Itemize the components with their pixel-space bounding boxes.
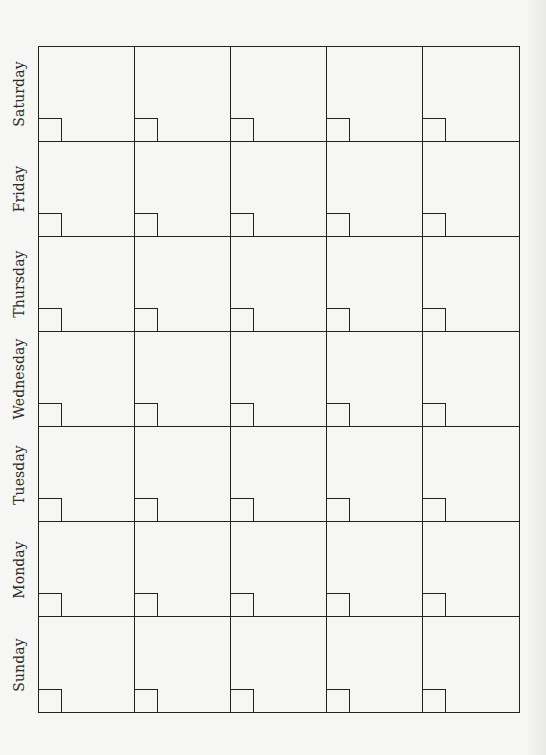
calendar-day-cell[interactable] (231, 427, 327, 522)
calendar-day-cell[interactable] (39, 47, 135, 142)
calendar-day-cell[interactable] (39, 522, 135, 617)
calendar-day-cell[interactable] (327, 617, 423, 712)
date-number-box[interactable] (135, 118, 158, 141)
day-label-text: Saturday (11, 61, 27, 126)
day-label-text: Friday (11, 166, 27, 213)
calendar-day-cell[interactable] (135, 142, 231, 237)
calendar-day-cell[interactable] (135, 332, 231, 427)
day-label-friday: Friday (0, 141, 38, 236)
calendar-day-cell[interactable] (231, 142, 327, 237)
calendar-day-cell[interactable] (39, 237, 135, 332)
day-label-text: Thursday (11, 251, 27, 318)
day-label-sunday: Sunday (0, 618, 38, 713)
date-number-box[interactable] (327, 403, 350, 426)
date-number-box[interactable] (327, 118, 350, 141)
day-label-tuesday: Tuesday (0, 427, 38, 522)
date-number-box[interactable] (327, 498, 350, 521)
date-number-box[interactable] (423, 593, 446, 616)
date-number-box[interactable] (423, 498, 446, 521)
day-label-monday: Monday (0, 522, 38, 617)
date-number-box[interactable] (423, 403, 446, 426)
date-number-box[interactable] (231, 689, 254, 712)
date-number-box[interactable] (135, 308, 158, 331)
date-number-box[interactable] (39, 118, 62, 141)
calendar-grid (38, 46, 520, 713)
calendar-day-cell[interactable] (39, 332, 135, 427)
date-number-box[interactable] (327, 308, 350, 331)
date-number-box[interactable] (135, 213, 158, 236)
calendar-day-cell[interactable] (135, 237, 231, 332)
date-number-box[interactable] (327, 593, 350, 616)
calendar-day-cell[interactable] (135, 522, 231, 617)
calendar-day-cell[interactable] (327, 237, 423, 332)
calendar-day-cell[interactable] (327, 47, 423, 142)
calendar-day-cell[interactable] (231, 522, 327, 617)
calendar-day-cell[interactable] (423, 237, 519, 332)
day-label-text: Sunday (11, 639, 27, 692)
date-number-box[interactable] (135, 498, 158, 521)
date-number-box[interactable] (135, 689, 158, 712)
calendar-day-cell[interactable] (423, 142, 519, 237)
date-number-box[interactable] (135, 403, 158, 426)
calendar-day-cell[interactable] (327, 142, 423, 237)
calendar-day-cell[interactable] (231, 47, 327, 142)
day-label-wednesday: Wednesday (0, 332, 38, 427)
date-number-box[interactable] (231, 308, 254, 331)
day-label-text: Monday (11, 541, 27, 599)
calendar-day-cell[interactable] (231, 237, 327, 332)
date-number-box[interactable] (327, 213, 350, 236)
calendar-day-cell[interactable] (423, 617, 519, 712)
calendar-day-cell[interactable] (231, 617, 327, 712)
date-number-box[interactable] (39, 403, 62, 426)
day-labels-column: SaturdayFridayThursdayWednesdayTuesdayMo… (0, 46, 38, 713)
date-number-box[interactable] (423, 308, 446, 331)
date-number-box[interactable] (231, 498, 254, 521)
date-number-box[interactable] (423, 213, 446, 236)
day-label-thursday: Thursday (0, 237, 38, 332)
date-number-box[interactable] (39, 213, 62, 236)
calendar-day-cell[interactable] (327, 522, 423, 617)
date-number-box[interactable] (231, 118, 254, 141)
calendar-day-cell[interactable] (135, 617, 231, 712)
calendar-day-cell[interactable] (423, 332, 519, 427)
calendar-day-cell[interactable] (231, 332, 327, 427)
day-label-saturday: Saturday (0, 46, 38, 141)
date-number-box[interactable] (423, 118, 446, 141)
calendar-day-cell[interactable] (39, 142, 135, 237)
calendar-day-cell[interactable] (135, 47, 231, 142)
calendar-day-cell[interactable] (135, 427, 231, 522)
date-number-box[interactable] (39, 593, 62, 616)
page-edge-shadow (526, 0, 546, 755)
calendar-day-cell[interactable] (423, 427, 519, 522)
day-label-text: Tuesday (11, 445, 27, 505)
date-number-box[interactable] (423, 689, 446, 712)
date-number-box[interactable] (231, 403, 254, 426)
day-label-text: Wednesday (11, 339, 27, 420)
date-number-box[interactable] (327, 689, 350, 712)
calendar-day-cell[interactable] (39, 427, 135, 522)
date-number-box[interactable] (39, 308, 62, 331)
calendar-day-cell[interactable] (423, 47, 519, 142)
date-number-box[interactable] (39, 689, 62, 712)
calendar-day-cell[interactable] (327, 427, 423, 522)
date-number-box[interactable] (135, 593, 158, 616)
calendar-day-cell[interactable] (39, 617, 135, 712)
date-number-box[interactable] (231, 593, 254, 616)
calendar-day-cell[interactable] (423, 522, 519, 617)
calendar-day-cell[interactable] (327, 332, 423, 427)
date-number-box[interactable] (39, 498, 62, 521)
date-number-box[interactable] (231, 213, 254, 236)
